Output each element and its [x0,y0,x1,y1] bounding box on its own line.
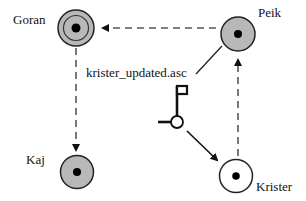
node-kaj[interactable] [61,156,94,189]
node-label-kaj: Kaj [26,152,45,168]
node-peik[interactable] [221,17,255,51]
file-label: krister_updated.asc [86,65,187,81]
flag-token-icon [158,86,187,128]
edge-token-to-krister [187,131,217,160]
node-label-peik: Peik [258,5,281,21]
node-goran[interactable] [58,10,94,46]
node-label-goran: Goran [13,12,46,28]
node-label-krister: Krister [256,179,292,195]
node-krister[interactable] [220,160,253,193]
label-connector-line [196,46,222,74]
repository-sync-diagram [0,0,306,201]
